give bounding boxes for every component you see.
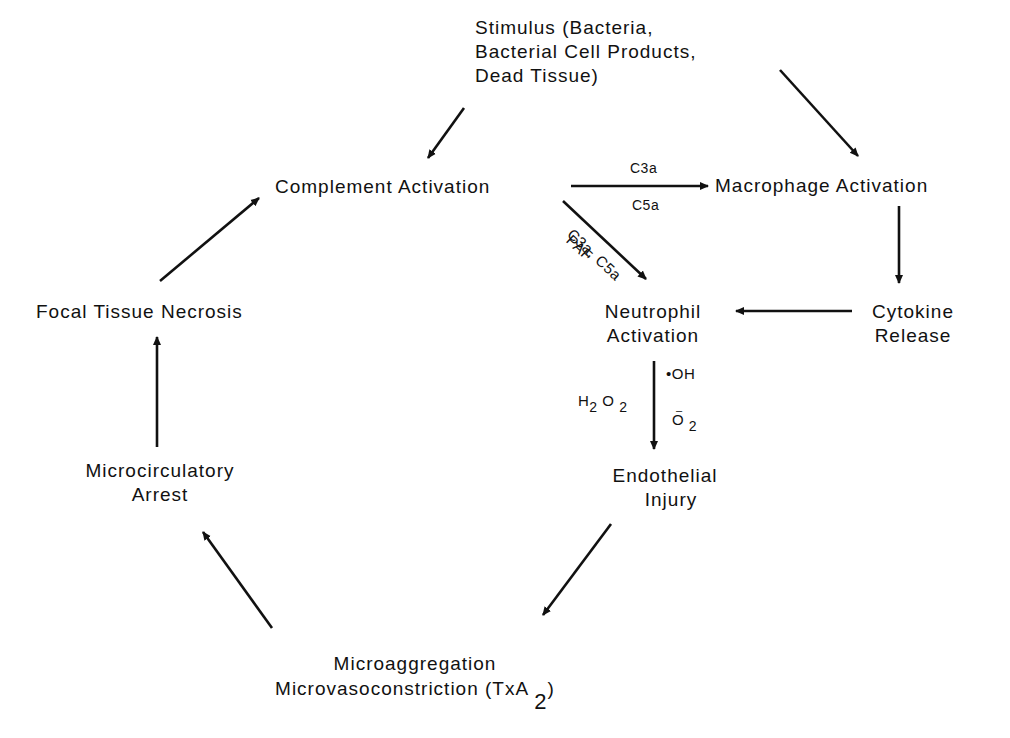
node-endothelial-injury: Endothelial Injury [590,464,740,512]
label-hydroxyl-radical: •OH [666,366,695,382]
stimulus-line-1: Stimulus (Bacteria, [475,16,696,40]
node-microaggregation: Microaggregation Microvasoconstriction (… [255,652,575,701]
arrow-stimulus-to-macrophage [780,70,858,156]
microaggregation-line-2: Microvasoconstriction (TxA 2) [255,676,575,701]
cytokine-line-2: Release [858,324,968,348]
arrow-endothelial-to-microaggregation [543,524,611,615]
arrow-necrosis-to-complement [160,198,259,281]
cytokine-line-1: Cytokine [858,300,968,324]
microcirculatory-line-2: Arrest [60,483,260,507]
h2o2-h: H [578,392,589,409]
endothelial-line-2: Injury [590,488,740,512]
label-c3a-top: C3a [630,160,657,176]
arrow-layer [0,0,1010,738]
label-superoxide: O – 2 [672,412,697,428]
superoxide-charge: – [676,402,683,418]
arrow-microaggregation-to-microcirculatory [203,532,272,628]
node-neutrophil-activation: Neutrophil Activation [588,300,718,348]
node-complement-activation: Complement Activation [275,175,490,199]
node-cytokine-release: Cytokine Release [858,300,968,348]
h2o2-sub-2: 2 [619,399,627,415]
stimulus-line-3: Dead Tissue) [475,64,696,88]
stimulus-line-2: Bacterial Cell Products, [475,40,696,64]
arrow-stimulus-to-complement [428,108,464,158]
microcirculatory-line-1: Microcirculatory [60,459,260,483]
node-microcirculatory-arrest: Microcirculatory Arrest [60,459,260,507]
h2o2-o: O [602,392,614,409]
neutrophil-line-1: Neutrophil [588,300,718,324]
h2o2-sub-1: 2 [589,399,597,415]
neutrophil-line-2: Activation [588,324,718,348]
node-stimulus: Stimulus (Bacteria, Bacterial Cell Produ… [475,16,696,88]
node-macrophage-activation: Macrophage Activation [715,174,928,198]
node-focal-tissue-necrosis: Focal Tissue Necrosis [36,300,243,324]
label-c5a-bottom: C5a [632,197,659,213]
label-hydrogen-peroxide: H2 O 2 [578,393,627,409]
microaggregation-line-1: Microaggregation [255,652,575,676]
txa-subscript: 2 [534,689,547,714]
microvasoconstriction-text: Microvasoconstriction (TxA [275,678,528,699]
superoxide-sub: 2 [689,418,697,434]
endothelial-line-1: Endothelial [590,464,740,488]
close-paren: ) [548,678,555,699]
